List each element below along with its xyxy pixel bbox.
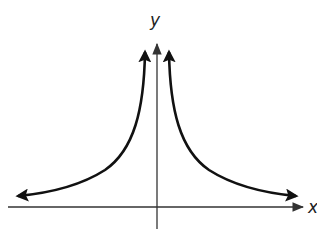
curve-left-branch bbox=[18, 52, 145, 196]
curve-right-branch bbox=[169, 52, 296, 196]
graph-canvas bbox=[0, 0, 317, 248]
x-axis-label: x bbox=[308, 197, 317, 217]
y-axis-label: y bbox=[150, 10, 160, 30]
